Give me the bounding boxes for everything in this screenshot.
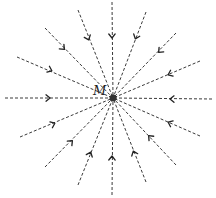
arrow-icon [170, 96, 174, 102]
field-lines [5, 2, 212, 195]
field-line-bottom-right-3 [113, 98, 146, 182]
field-line-top-right-1 [113, 12, 146, 98]
field-line-top-right-2 [113, 33, 176, 98]
field-line-bottom-left-2 [45, 98, 113, 167]
field-line-bottom-left-1 [78, 98, 113, 185]
arrow-icon [47, 66, 52, 72]
field-line-right [113, 98, 212, 99]
arrow-icon [50, 122, 55, 128]
field-line-bottom-right-2 [113, 98, 176, 165]
field-line-top-right-3 [113, 61, 200, 98]
field-line-bottom [112, 98, 113, 195]
field-line-top [112, 2, 113, 98]
arrow-icon [67, 141, 72, 146]
arrow-icon [59, 44, 64, 49]
field-line-diagram: M [0, 0, 216, 198]
field-line-bottom-left-3 [20, 98, 113, 137]
point-charge [110, 95, 117, 102]
charge-label: M [92, 83, 107, 98]
arrow-icon [84, 35, 90, 40]
